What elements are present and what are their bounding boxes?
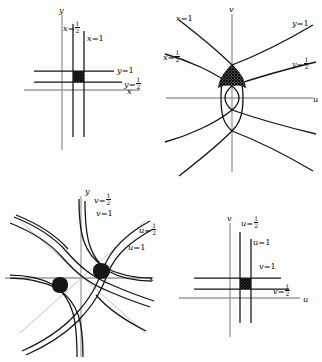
label-u-half: u=12	[241, 216, 258, 229]
label-x-half: x=12	[63, 21, 80, 34]
label-v-half: v=12	[94, 193, 111, 206]
curve-v-half-upper	[79, 199, 152, 278]
label-y-half: y=12	[124, 77, 141, 90]
panel-xy-plane-lines: y x x=12 x=1 y=1 y=12	[0, 0, 161, 181]
curve-x-one-lower	[179, 131, 232, 176]
shaded-region-upper-right	[93, 263, 110, 279]
label-x-one: x=1	[176, 14, 193, 22]
label-x-one: x=1	[87, 34, 104, 42]
curve-u-half-sw	[14, 217, 154, 301]
curve-u-one-se	[96, 295, 146, 331]
shaded-square	[240, 278, 251, 289]
label-v-one: v=1	[259, 262, 276, 270]
panel-xy-plane-images: y x v=12 v=1 u=12 u=1	[0, 181, 161, 362]
label-y-half: y=12	[292, 57, 309, 70]
axis-label-y: y	[59, 6, 64, 14]
panel-uv-plane-images: v u x=1 x=12 y=1 y=12	[161, 0, 322, 181]
axis-label-x: x	[149, 274, 154, 282]
curve-x-one-upper	[179, 20, 232, 65]
label-y-one: y=1	[117, 66, 134, 74]
label-u-half: u=12	[139, 223, 156, 236]
curve-y-half-lower	[232, 110, 316, 134]
shaded-region-lower-left	[52, 277, 68, 293]
axis-label-v: v	[229, 5, 234, 13]
label-y-one: y=1	[292, 19, 309, 27]
math-figure: y x x=12 x=1 y=1 y=12	[0, 0, 322, 362]
label-x-half: x=12	[163, 50, 180, 63]
label-v-half: v=12	[273, 284, 290, 297]
axis-label-v: v	[227, 214, 232, 222]
shaded-curvilinear-region	[218, 65, 246, 88]
label-v-one: v=1	[96, 209, 113, 217]
axis-label-u: u	[303, 295, 308, 303]
shaded-square	[73, 71, 84, 82]
curve-u-half-nw	[16, 215, 68, 249]
axis-label-u: u	[313, 95, 318, 103]
label-u-one: u=1	[253, 238, 270, 246]
curve-y-one-lower	[232, 131, 313, 171]
axis-label-y: y	[85, 187, 90, 195]
label-u-one: u=1	[128, 243, 145, 251]
panel-uv-plane-lines: v u u=12 u=1 v=1 v=12	[161, 181, 322, 362]
